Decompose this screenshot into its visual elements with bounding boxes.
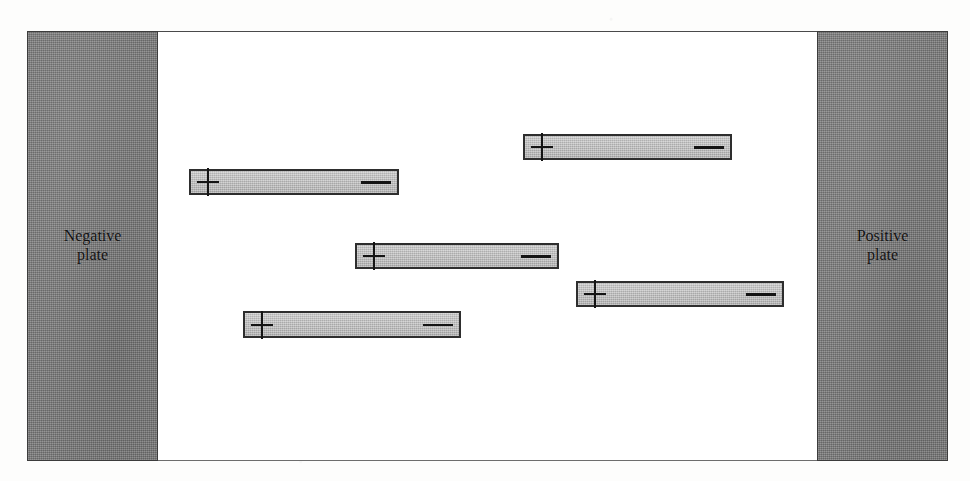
negative-plate-label: Negative plate xyxy=(64,227,122,265)
dielectric-gap: + − + − + − xyxy=(158,31,817,461)
capacitor-dipole-figure: Negative plate + − + − xyxy=(0,0,970,481)
plus-charge-icon: + xyxy=(363,245,385,267)
negative-plate-label-line2: plate xyxy=(64,246,122,265)
minus-charge-icon: − xyxy=(365,171,387,193)
plus-charge-icon: + xyxy=(531,136,553,158)
minus-charge-icon: − xyxy=(525,245,547,267)
negative-plate-label-line1: Negative xyxy=(64,227,122,246)
positive-plate-label-line2: plate xyxy=(857,246,909,265)
dipole-molecule: + − xyxy=(576,281,784,307)
plus-charge-icon: + xyxy=(197,171,219,193)
minus-charge-icon: − xyxy=(698,136,720,158)
plus-charge-icon: + xyxy=(584,283,606,305)
dipole-molecule: + − xyxy=(355,243,559,269)
dipole-molecule: + − xyxy=(189,169,399,195)
plus-charge-icon: + xyxy=(251,314,273,336)
positive-plate-label-line1: Positive xyxy=(857,227,909,246)
capacitor-assembly: Negative plate + − + − xyxy=(27,31,948,461)
dipole-molecule: + − xyxy=(243,311,461,338)
positive-plate: Positive plate xyxy=(817,31,948,461)
minus-charge-icon: − xyxy=(750,283,772,305)
positive-plate-label: Positive plate xyxy=(857,227,909,265)
minus-charge-icon: − xyxy=(427,314,449,336)
negative-plate: Negative plate xyxy=(27,31,158,461)
dipole-molecule: + − xyxy=(523,134,732,160)
